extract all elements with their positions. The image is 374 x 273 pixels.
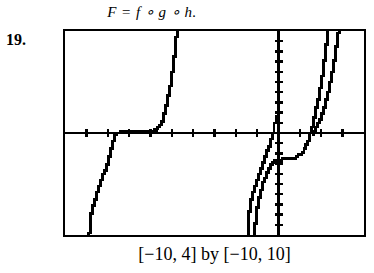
curve-curve-left-cube-root bbox=[89, 131, 158, 235]
graph-plot bbox=[65, 31, 364, 235]
calculator-screen bbox=[63, 29, 366, 237]
viewing-window-caption: [−10, 4] by [−10, 10] bbox=[63, 240, 366, 268]
axes-group bbox=[65, 31, 364, 235]
curve-curve-right-exponential bbox=[280, 31, 327, 160]
composite-function-formula: F = f ∘ g ∘ h. bbox=[0, 1, 374, 23]
problem-number: 19. bbox=[6, 30, 26, 50]
curve-curve-left-exponential bbox=[144, 31, 178, 131]
